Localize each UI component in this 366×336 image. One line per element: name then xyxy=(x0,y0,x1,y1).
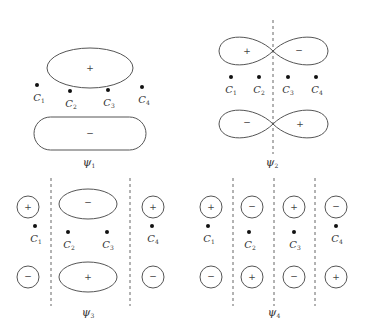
orbital-psi4: + − + − − + − + C1 C2 C3 C4 ψ4 xyxy=(200,178,347,319)
atom-dot-c1 xyxy=(33,224,37,228)
sign-minus: − xyxy=(207,271,215,281)
sign-plus: + xyxy=(149,202,157,212)
atom-label-c1: C1 xyxy=(203,233,214,245)
atom-label-c4: C4 xyxy=(138,94,150,106)
atom-label-c4: C4 xyxy=(147,233,159,245)
sign-plus: + xyxy=(24,202,32,212)
atom-dot-c1 xyxy=(229,75,233,79)
sign-minus: − xyxy=(149,271,157,281)
orbital-psi1: + − C1 C2 C3 C4 ψ1 xyxy=(33,48,150,169)
atom-label-c2: C2 xyxy=(63,239,75,251)
orbital-psi2: + − − + C1 C2 C3 C4 ψ2 xyxy=(219,20,328,169)
p-orbital-bottom xyxy=(219,110,328,138)
atom-dot-c3 xyxy=(292,230,296,234)
atom-dot-c2 xyxy=(257,75,261,79)
sign-minus: − xyxy=(290,271,298,281)
atom-label-c1: C1 xyxy=(33,92,44,104)
atom-dot-c4 xyxy=(150,224,154,228)
sign-plus: + xyxy=(86,63,94,73)
atom-dot-c1 xyxy=(206,224,210,228)
sign-plus: + xyxy=(290,202,298,212)
atom-dot-c2 xyxy=(66,230,70,234)
sign-minus: − xyxy=(332,201,340,211)
atom-label-c4: C4 xyxy=(331,233,343,245)
sign-minus: − xyxy=(295,45,303,55)
atom-label-c2: C2 xyxy=(65,98,77,110)
atom-dot-c3 xyxy=(105,230,109,234)
sign-minus: − xyxy=(24,271,32,281)
atom-label-c3: C3 xyxy=(289,239,301,251)
sign-plus: + xyxy=(207,202,215,212)
p-orbital-top xyxy=(219,37,328,65)
sign-plus: + xyxy=(243,46,251,56)
molecular-orbital-diagram: + − C1 C2 C3 C4 ψ1 + − − + C1 C2 C3 C4 ψ… xyxy=(0,0,366,336)
orbital-label-psi3: ψ3 xyxy=(82,306,95,319)
atom-dot-c1 xyxy=(35,83,39,87)
atom-label-c3: C3 xyxy=(282,84,294,96)
orbital-psi3: + − + − + − C1 C2 C3 C4 ψ3 xyxy=(17,178,164,319)
sign-minus: − xyxy=(243,117,251,127)
atom-label-c3: C3 xyxy=(102,239,114,251)
atom-dot-c2 xyxy=(247,230,251,234)
atom-label-c1: C1 xyxy=(30,233,41,245)
sign-plus: + xyxy=(248,272,256,282)
sign-minus: − xyxy=(84,197,92,207)
atom-dot-c4 xyxy=(334,224,338,228)
atom-dot-c3 xyxy=(286,75,290,79)
atom-label-c2: C2 xyxy=(253,84,265,96)
sign-minus: − xyxy=(86,128,94,138)
atom-label-c4: C4 xyxy=(311,84,323,96)
atom-label-c3: C3 xyxy=(103,97,115,109)
atom-label-c2: C2 xyxy=(244,239,256,251)
atom-dot-c3 xyxy=(106,88,110,92)
atom-dot-c2 xyxy=(68,89,72,93)
orbital-label-psi1: ψ1 xyxy=(83,156,95,169)
atom-dot-c4 xyxy=(314,75,318,79)
atom-label-c1: C1 xyxy=(225,84,236,96)
sign-plus: + xyxy=(84,272,92,282)
sign-minus: − xyxy=(248,201,256,211)
orbital-label-psi4: ψ4 xyxy=(268,306,281,319)
atom-dot-c4 xyxy=(140,85,144,89)
sign-plus: + xyxy=(332,272,340,282)
sign-plus: + xyxy=(296,119,304,129)
